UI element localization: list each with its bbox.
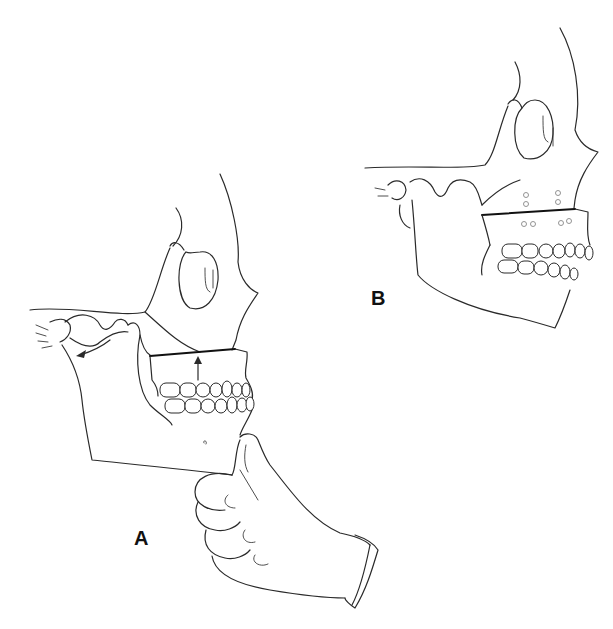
lower-teeth-a	[165, 397, 254, 413]
lower-teeth-b	[498, 260, 578, 280]
panel-a-drawing	[30, 174, 378, 608]
upper-teeth-a	[160, 381, 250, 397]
upper-teeth-b	[502, 243, 593, 260]
gloved-hand	[195, 434, 378, 608]
fixation-screw-holes	[522, 191, 572, 227]
skull-illustration	[0, 0, 613, 629]
panel-a-label: A	[134, 527, 148, 550]
panel-b-drawing	[365, 28, 598, 328]
panel-b-label: B	[371, 287, 385, 310]
